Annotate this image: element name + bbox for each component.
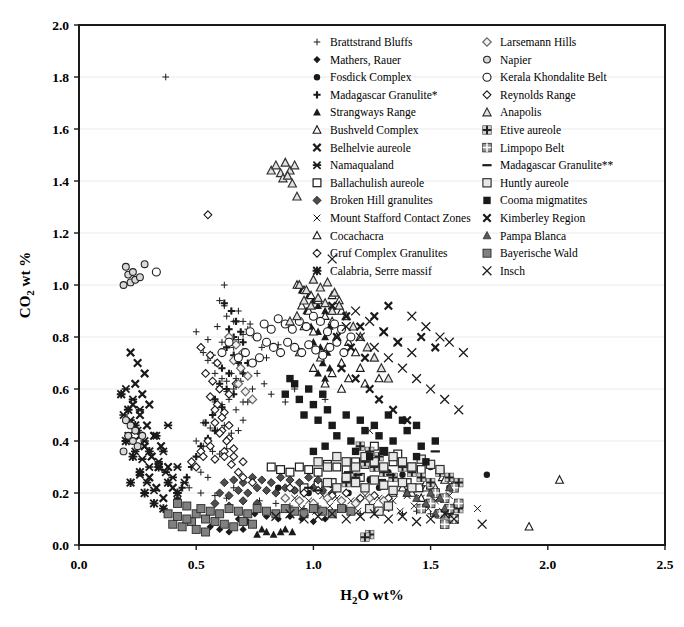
- data-point: [323, 463, 331, 471]
- data-point: [267, 463, 275, 471]
- legend-label: Kimberley Region: [500, 212, 586, 225]
- legend-label: Huntly aureole: [500, 177, 569, 190]
- legend-item[interactable]: Kerala Khondalite Belt: [483, 71, 607, 83]
- legend-label: Gruf Complex Granulites: [330, 247, 448, 260]
- data-point: [239, 518, 247, 526]
- data-point: [274, 315, 282, 323]
- data-point: [139, 432, 146, 439]
- data-point: [323, 328, 331, 336]
- data-point: [220, 520, 228, 528]
- data-point: [120, 282, 127, 289]
- data-point: [145, 447, 154, 456]
- legend-label: Bushveld Complex: [330, 124, 419, 137]
- legend-item[interactable]: Gruf Complex Granulites: [313, 247, 448, 260]
- y-tick-label: 0.0: [52, 538, 69, 553]
- data-point: [117, 390, 126, 399]
- data-point: [197, 505, 205, 513]
- data-point: [296, 396, 303, 403]
- data-point: [260, 320, 268, 328]
- legend-label: Madagascar Granulite*: [330, 89, 438, 102]
- data-point: [305, 466, 313, 474]
- data-point: [282, 391, 289, 398]
- data-point: [484, 472, 490, 478]
- data-point: [120, 448, 127, 455]
- legend-item[interactable]: Madagascar Granulite*: [313, 89, 437, 102]
- data-point: [342, 473, 350, 481]
- data-point: [314, 417, 321, 424]
- data-point: [361, 427, 368, 434]
- data-point: [310, 401, 317, 408]
- data-point: [225, 338, 233, 346]
- data-point: [277, 466, 285, 474]
- data-point: [380, 463, 388, 471]
- data-point: [263, 338, 271, 346]
- data-point: [357, 417, 364, 424]
- data-point: [313, 266, 322, 275]
- data-point: [253, 505, 261, 513]
- data-point: [342, 458, 350, 466]
- data-point: [263, 507, 271, 515]
- data-point: [436, 466, 444, 474]
- legend-label: Limpopo Belt: [500, 142, 565, 155]
- data-point: [333, 484, 341, 492]
- y-tick-label: 0.4: [52, 434, 69, 449]
- data-point: [483, 179, 491, 187]
- data-point: [418, 443, 425, 450]
- data-point: [286, 375, 293, 382]
- data-point: [324, 406, 331, 413]
- data-point: [408, 484, 416, 492]
- data-point: [218, 349, 226, 357]
- data-point: [305, 385, 312, 392]
- legend-label: Fosdick Complex: [330, 71, 412, 84]
- y-tick-label: 0.8: [52, 330, 69, 345]
- data-point: [321, 443, 328, 450]
- data-point: [126, 478, 135, 487]
- legend-item[interactable]: Ballachulish aureole: [313, 177, 424, 189]
- data-point: [371, 422, 378, 429]
- data-point: [398, 479, 406, 487]
- data-point: [352, 448, 359, 455]
- legend-item[interactable]: Calabria, Serre massif: [313, 265, 432, 278]
- data-point: [132, 427, 139, 434]
- data-point: [244, 510, 252, 518]
- y-tick-label: 1.8: [52, 70, 69, 85]
- data-point: [314, 468, 322, 476]
- data-point: [316, 317, 324, 325]
- data-point: [183, 515, 191, 523]
- legend-label: Namaqualand: [330, 159, 394, 172]
- data-point: [140, 489, 149, 498]
- legend-item[interactable]: Mount Stafford Contact Zones: [314, 212, 472, 224]
- legend-label: Kerala Khondalite Belt: [500, 71, 607, 83]
- legend-label: Madagascar Granulite**: [500, 159, 614, 172]
- data-point: [255, 354, 263, 362]
- data-point: [302, 323, 310, 331]
- data-point: [230, 523, 238, 531]
- legend-item[interactable]: Broken Hill granulites: [313, 194, 433, 207]
- data-point: [389, 453, 397, 461]
- data-point: [154, 463, 163, 472]
- legend-item[interactable]: Madagascar Granulite**: [482, 159, 613, 172]
- data-point: [347, 333, 355, 341]
- legend-label: Reynolds Range: [500, 89, 576, 102]
- data-point: [399, 472, 405, 478]
- x-tick-label: 0.0: [71, 557, 88, 572]
- data-point: [309, 505, 317, 513]
- data-point: [298, 349, 306, 357]
- y-tick-label: 1.4: [52, 174, 69, 189]
- legend-label: Mathers, Rauer: [330, 54, 401, 67]
- data-point: [129, 452, 138, 461]
- y-tick-label: 1.0: [52, 278, 69, 293]
- data-point: [310, 448, 317, 455]
- data-point: [141, 261, 148, 268]
- data-point: [338, 505, 346, 513]
- data-point: [309, 312, 317, 320]
- data-point: [484, 56, 491, 63]
- data-point: [319, 351, 327, 359]
- legend-label: Brattstrand Bluffs: [330, 36, 413, 48]
- data-point: [483, 197, 490, 204]
- data-point: [152, 268, 160, 276]
- data-point: [130, 269, 137, 276]
- data-point: [202, 528, 210, 536]
- data-point: [216, 510, 224, 518]
- y-tick-label: 1.6: [52, 122, 69, 137]
